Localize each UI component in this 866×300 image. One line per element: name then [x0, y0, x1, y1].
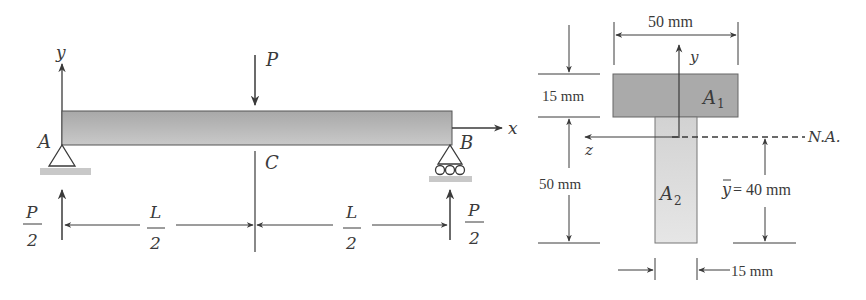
svg-text:= 40 mm: = 40 mm: [733, 181, 791, 198]
web-height-label: 50 mm: [539, 176, 581, 192]
midpoint-label: C: [265, 152, 279, 173]
span-left-dimension: L 2: [65, 202, 253, 253]
load-label: P: [265, 49, 279, 70]
section-z-label: z: [584, 141, 593, 159]
svg-text:2: 2: [345, 233, 357, 253]
area-a2-label: A: [658, 183, 673, 204]
neutral-axis-label: N.A.: [807, 128, 841, 146]
beam: [62, 111, 452, 145]
y-axis-label: y: [55, 42, 66, 62]
area-a2-subscript: 2: [674, 194, 682, 208]
svg-text:2: 2: [26, 230, 38, 250]
centroid-dimension-label: y = 40 mm: [721, 180, 791, 199]
svg-text:L: L: [149, 202, 161, 222]
svg-text:L: L: [345, 202, 357, 222]
simply-supported-beam: y x P A B C P 2: [23, 42, 518, 253]
svg-text:2: 2: [468, 228, 480, 248]
flange-width-label: 50 mm: [648, 13, 693, 30]
svg-text:P: P: [467, 200, 480, 220]
x-axis-label: x: [508, 118, 518, 138]
support-b-label: B: [459, 132, 473, 153]
area-a1-subscript: 1: [717, 97, 725, 111]
svg-text:y: y: [721, 180, 732, 199]
web-a2: [655, 117, 697, 243]
reaction-right-fraction: P 2: [465, 200, 484, 248]
area-a1-label: A: [701, 87, 716, 108]
svg-text:2: 2: [149, 233, 161, 253]
span-right-dimension: L 2: [257, 202, 447, 253]
beam-and-tsection-diagram: y x P A B C P 2: [0, 0, 866, 300]
section-y-label: y: [689, 48, 699, 66]
web-thickness-label: 15 mm: [731, 263, 773, 279]
t-cross-section: 50 mm A 1 A 2 y z N.A. 15 mm 50 mm: [538, 13, 841, 280]
reaction-left-fraction: P 2: [23, 202, 42, 250]
flange-thickness-label: 15 mm: [542, 88, 584, 104]
support-a-label: A: [36, 131, 51, 152]
svg-text:P: P: [25, 202, 38, 222]
